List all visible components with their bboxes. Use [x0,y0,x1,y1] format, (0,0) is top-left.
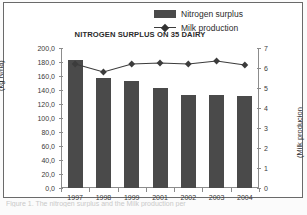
y-axis-left-tick-label: 0,0 [21,185,55,192]
y-axis-left-title: (kg N/ha) [0,60,5,91]
y-axis-left-tick-label: 160,0 [21,73,55,80]
figure-root: Nitrogen surplus Milk production NITROGE… [0,0,307,215]
bar-swatch-icon [154,10,176,18]
line-series-milk-production [61,48,259,188]
figure-frame: Nitrogen surplus Milk production NITROGE… [3,2,303,198]
legend-label: Nitrogen surplus [181,9,243,19]
y-axis-right-tick-label: 0 [264,185,278,192]
data-point-marker [185,61,192,68]
plot-area: 200,0180,0160,0140,0120,0100,080,060,040… [61,48,259,188]
data-point-marker [157,60,164,67]
data-point-marker [128,61,135,68]
y-axis-right-tick-label: 5 [264,85,278,92]
y-axis-left-tick-label: 80,0 [21,129,55,136]
y-axis-left-tick-label: 140,0 [21,87,55,94]
y-axis-left-tick-label: 100,0 [21,115,55,122]
x-axis-tick [118,188,119,192]
y-axis-right-title: (Milk producion [295,107,304,158]
x-axis-tick [231,188,232,192]
chart-title: NITROGEN SURPLUS ON 35 DAIRY [60,30,220,39]
y-axis-left-tick-label: 20,0 [21,171,55,178]
x-axis-tick [202,188,203,192]
y-axis-left-tick-label: 120,0 [21,101,55,108]
x-axis-tick [146,188,147,192]
x-axis-tick [89,188,90,192]
data-point-marker [72,61,79,68]
data-point-marker [100,69,107,76]
y-axis-left-tick-label: 180,0 [21,59,55,66]
y-axis-right-tick-label: 2 [264,145,278,152]
y-axis-left-tick-label: 200,0 [21,45,55,52]
legend-item-nitrogen-surplus: Nitrogen surplus [154,7,302,20]
y-axis-right-tick-label: 1 [264,165,278,172]
y-axis-right-tick-label: 7 [264,45,278,52]
y-axis-left-tick-label: 40,0 [21,157,55,164]
y-axis-right-tick-label: 4 [264,105,278,112]
figure-caption: Figure 1. The nitrogen surplus and the M… [6,200,302,207]
y-axis-right-tick-label: 3 [264,125,278,132]
y-axis-right-tick-label: 6 [264,65,278,72]
x-axis-tick [259,188,260,192]
x-axis-tick [61,188,62,192]
x-axis-tick [174,188,175,192]
y-axis-left-tick-label: 60,0 [21,143,55,150]
data-point-marker [241,62,248,69]
data-point-marker [213,58,220,65]
